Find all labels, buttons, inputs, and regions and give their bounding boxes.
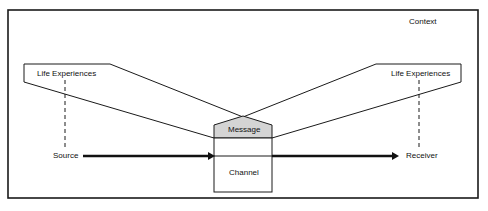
- right-life-experiences-label: Life Experiences: [391, 69, 450, 78]
- left-life-experiences-label: Life Experiences: [37, 69, 96, 78]
- channel-label: Channel: [229, 168, 259, 177]
- receiver-arrow-head: [392, 152, 399, 160]
- channel-box: [214, 138, 272, 192]
- communication-model-diagram: [0, 0, 488, 211]
- context-label: Context: [409, 17, 437, 26]
- message-label: Message: [228, 125, 260, 134]
- source-label: Source: [53, 151, 78, 160]
- receiver-label: Receiver: [406, 151, 438, 160]
